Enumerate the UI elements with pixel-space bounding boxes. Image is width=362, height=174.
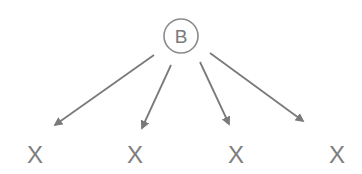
edge-arrow-2 bbox=[142, 65, 171, 128]
tree-diagram: B X X X X bbox=[0, 0, 362, 174]
leaf-node-3: X bbox=[221, 143, 251, 167]
root-node-label: B bbox=[164, 19, 198, 53]
edge-arrow-4 bbox=[210, 53, 303, 121]
edge-arrow-3 bbox=[200, 62, 229, 124]
leaf-node-1: X bbox=[20, 143, 50, 167]
leaf-node-2: X bbox=[120, 143, 150, 167]
leaf-node-4: X bbox=[322, 143, 352, 167]
edge-arrow-1 bbox=[55, 55, 154, 125]
